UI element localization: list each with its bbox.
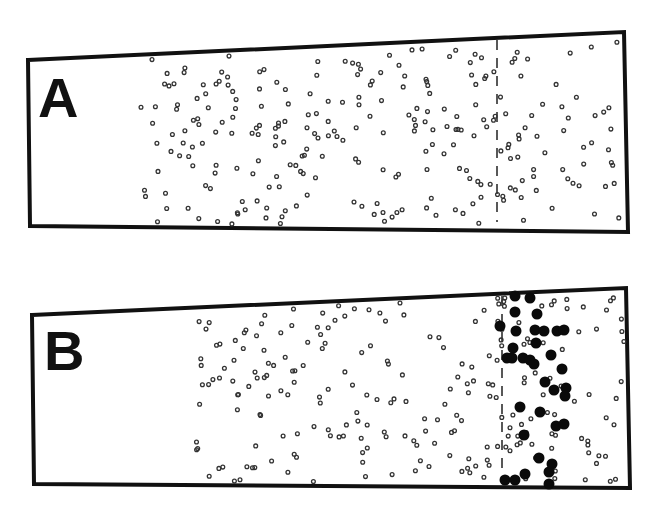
small-dot: [500, 344, 504, 348]
small-dot: [356, 419, 360, 423]
small-dot: [485, 125, 489, 129]
small-dot: [191, 164, 195, 168]
small-dot: [454, 208, 458, 212]
small-dot: [499, 95, 503, 99]
small-dot: [427, 465, 431, 469]
small-dot: [367, 308, 371, 312]
large-dot: [525, 293, 536, 304]
small-dot: [415, 443, 419, 447]
small-dot: [223, 366, 227, 370]
small-dot: [553, 477, 557, 481]
small-dot: [474, 83, 478, 87]
small-dot: [390, 473, 394, 477]
small-dot: [206, 106, 210, 110]
small-dot: [390, 215, 394, 219]
small-dot: [233, 479, 237, 483]
small-dot: [313, 132, 317, 136]
small-dot: [357, 103, 361, 107]
small-dot: [262, 376, 266, 380]
small-dot: [381, 168, 385, 172]
small-dot: [398, 301, 402, 305]
small-dot: [534, 189, 538, 193]
small-dot: [255, 376, 259, 380]
small-dot: [319, 333, 323, 337]
small-dot: [407, 113, 411, 117]
small-dot: [565, 307, 569, 311]
small-dot: [397, 63, 401, 67]
small-dot: [504, 445, 508, 449]
small-dot: [550, 206, 554, 210]
small-dot: [504, 112, 508, 116]
small-dot: [510, 60, 514, 64]
small-dot: [520, 423, 524, 427]
small-dot: [480, 56, 484, 60]
small-dot: [226, 75, 230, 79]
small-dot: [254, 444, 258, 448]
small-dot: [323, 341, 327, 345]
large-dot: [508, 343, 519, 354]
small-dot: [612, 182, 616, 186]
small-dot: [191, 145, 195, 149]
small-dot: [151, 121, 155, 125]
large-dot: [510, 291, 521, 302]
small-dot: [139, 105, 143, 109]
small-dot: [301, 364, 305, 368]
small-dot: [586, 443, 590, 447]
small-dot: [234, 98, 238, 102]
small-dot: [516, 155, 520, 159]
large-dot: [539, 326, 550, 337]
small-dot: [201, 383, 205, 387]
small-dot: [610, 161, 614, 165]
small-dot: [213, 171, 217, 175]
small-dot: [361, 451, 365, 455]
small-dot: [263, 313, 267, 317]
small-dot: [541, 393, 545, 397]
small-dot: [488, 394, 492, 398]
small-dot: [211, 378, 215, 382]
small-dot: [566, 116, 570, 120]
small-dot: [207, 383, 211, 387]
small-dot: [320, 347, 324, 351]
small-dot: [492, 118, 496, 122]
small-dot: [513, 57, 517, 61]
small-dot: [612, 423, 616, 427]
small-dot: [384, 319, 388, 323]
small-dot: [419, 459, 423, 463]
small-dot: [207, 321, 211, 325]
small-dot: [589, 45, 593, 49]
small-dot: [619, 380, 623, 384]
small-dot: [493, 114, 497, 118]
small-dot: [155, 141, 159, 145]
small-dot: [412, 118, 416, 122]
small-dot: [500, 416, 504, 420]
small-dot: [546, 411, 550, 415]
small-dot: [156, 170, 160, 174]
small-dot: [604, 454, 608, 458]
small-dot: [482, 118, 486, 122]
small-dot: [277, 185, 281, 189]
small-dot: [198, 402, 202, 406]
small-dot: [176, 103, 180, 107]
small-dot: [305, 193, 309, 197]
small-dot: [403, 74, 407, 78]
large-dot: [540, 377, 551, 388]
small-dot: [541, 341, 545, 345]
large-dot: [500, 475, 511, 486]
small-dot: [241, 347, 245, 351]
small-dot: [520, 179, 524, 183]
small-dot: [595, 462, 599, 466]
small-dot: [286, 393, 290, 397]
small-dot: [316, 325, 320, 329]
small-dot: [199, 364, 203, 368]
small-dot: [479, 195, 483, 199]
small-dot: [326, 387, 330, 391]
small-dot: [452, 143, 456, 147]
small-dot: [154, 105, 158, 109]
small-dot: [384, 435, 388, 439]
large-dot: [510, 475, 521, 486]
small-dot: [195, 97, 199, 101]
small-dot: [355, 411, 359, 415]
small-dot: [305, 126, 309, 130]
small-dot: [499, 338, 503, 342]
small-dot: [491, 383, 495, 387]
